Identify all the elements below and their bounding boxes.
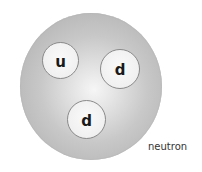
quark-symbol: u	[55, 55, 66, 70]
quark-symbol: d	[81, 114, 92, 129]
quark-symbol: d	[115, 63, 126, 78]
particle-label: neutron	[148, 141, 187, 152]
quark-up: u	[42, 42, 79, 79]
quark-down-2: d	[67, 100, 106, 139]
quark-down-1: d	[100, 49, 140, 89]
